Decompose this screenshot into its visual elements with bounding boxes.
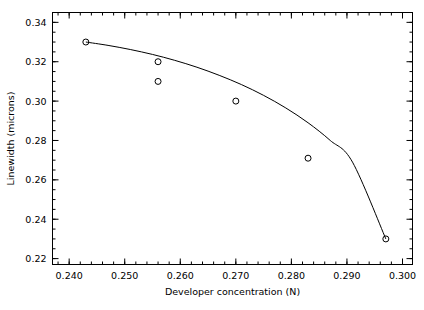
data-point-marker bbox=[155, 78, 161, 84]
x-axis-tick-label: 0.300 bbox=[389, 270, 416, 281]
x-axis-tick-label: 0.240 bbox=[56, 270, 83, 281]
y-axis-tick-label: 0.28 bbox=[25, 135, 46, 146]
x-axis-tick-label: 0.270 bbox=[222, 270, 249, 281]
x-axis-tick-label: 0.260 bbox=[167, 270, 194, 281]
x-axis-tick-label: 0.290 bbox=[333, 270, 360, 281]
plot-frame bbox=[53, 13, 413, 265]
y-axis-tick-label: 0.26 bbox=[25, 174, 46, 185]
data-point-marker bbox=[305, 155, 311, 161]
y-axis-tick-label: 0.24 bbox=[25, 214, 46, 225]
data-point-marker bbox=[233, 98, 239, 104]
y-axis-tick-label: 0.22 bbox=[25, 253, 46, 264]
y-axis-tick-label: 0.34 bbox=[25, 17, 46, 28]
x-axis-title: Developer concentration (N) bbox=[165, 286, 300, 297]
data-point-marker bbox=[155, 59, 161, 65]
x-axis-tick-label: 0.250 bbox=[111, 270, 138, 281]
x-axis-tick-label: 0.280 bbox=[278, 270, 305, 281]
y-axis-title: Linewidth (microns) bbox=[5, 91, 16, 185]
y-axis-tick-label: 0.32 bbox=[25, 56, 46, 67]
chart-figure: 0.2400.2500.2600.2700.2800.2900.3000.220… bbox=[0, 0, 424, 310]
fit-curve bbox=[86, 42, 386, 239]
y-axis-tick-label: 0.30 bbox=[25, 96, 46, 107]
scatter-plot-canvas: 0.2400.2500.2600.2700.2800.2900.3000.220… bbox=[0, 0, 424, 310]
